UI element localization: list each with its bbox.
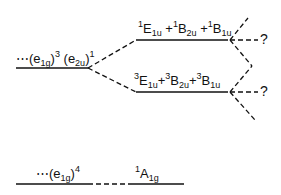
excited-configuration-label: ⋯(e1g)3 (e2u)1 (16, 50, 94, 68)
ground-state-label: 1A1g (135, 165, 159, 183)
triplet-states-label: 3E1u+3B2u+3B1u (134, 72, 220, 90)
singlet-states-label: 1E1u +1B2u +1B1u (138, 20, 232, 38)
ground-configuration-label: ⋯(e1g)4 (36, 165, 80, 183)
triplet-unknown-marker: ? (260, 84, 268, 98)
split-to-triplet (88, 68, 136, 92)
singlet-unknown-marker: ? (260, 32, 268, 46)
split-to-singlet (88, 40, 136, 68)
